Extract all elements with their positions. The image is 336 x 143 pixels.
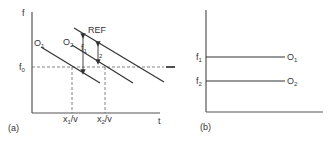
x1-over-v-label: x1/v <box>63 114 78 125</box>
f0-label: f0 <box>19 62 26 73</box>
frequency-time-diagram: f t f0 O1 O2 REF f1 2 x1/v x2/v (a) f1 <box>0 0 336 143</box>
level-f2-label: f2 <box>196 76 203 87</box>
f2-label: 2 <box>99 53 103 59</box>
f1-label: f1 <box>81 43 88 54</box>
level-o1-label: O1 <box>287 52 298 63</box>
line-o1 <box>41 47 100 83</box>
level-f1-label: f1 <box>196 52 203 63</box>
panel-a: f t f0 O1 O2 REF f1 2 x1/v x2/v (a) <box>8 8 164 133</box>
panel-b: f1 f2 O1 O2 (b) <box>196 10 323 132</box>
o1-label: O1 <box>34 38 45 49</box>
y-axis-label: f <box>22 8 25 18</box>
x2-over-v-label: x2/v <box>97 114 112 125</box>
ref-label: REF <box>88 25 107 35</box>
panel-b-label: (b) <box>200 122 211 132</box>
x-axis-label: t <box>158 116 161 126</box>
level-o2-label: O2 <box>287 76 298 87</box>
panel-a-label: (a) <box>8 123 19 133</box>
o2-label: O2 <box>63 37 74 48</box>
